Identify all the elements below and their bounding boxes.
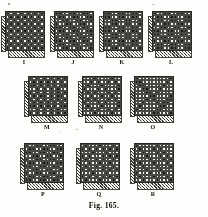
- draft-diagram-j: [54, 11, 99, 59]
- scan-speck: [60, 132, 61, 133]
- treadling-strip: [8, 50, 45, 58]
- diagram-label-p: P: [35, 191, 51, 197]
- scan-speck: [76, 129, 78, 130]
- treadling-strip: [137, 115, 174, 123]
- diagram-label-o: O: [145, 124, 161, 130]
- draft-diagram-o: [134, 76, 179, 124]
- draft-diagram-l: [152, 11, 197, 59]
- draft-diagram-i: [5, 11, 50, 59]
- diagram-label-l: L: [163, 59, 179, 65]
- treadling-strip: [31, 115, 68, 123]
- pattern-cell: [115, 178, 118, 181]
- treadling-strip: [57, 50, 94, 58]
- draft-diagram-n: [82, 76, 127, 124]
- pattern-cell: [138, 46, 141, 49]
- pattern-cell: [169, 111, 172, 114]
- treadling-strip-rule: [28, 183, 63, 189]
- pattern-cell: [59, 178, 62, 181]
- diagram-label-q: Q: [91, 191, 107, 197]
- treadling-strip: [85, 115, 122, 123]
- diagram-label-m: M: [39, 124, 55, 130]
- pattern-grid: [103, 11, 143, 51]
- treadling-strip: [83, 182, 120, 190]
- treadling-strip: [137, 182, 174, 190]
- figure-page: IJKLMNOPQR Fig. 165.: [0, 0, 208, 217]
- treadling-strip-rule: [9, 51, 44, 57]
- treadling-strip-rule: [156, 51, 191, 57]
- pattern-cell: [117, 111, 120, 114]
- treadling-strip-rule: [107, 51, 142, 57]
- treadling-strip: [106, 50, 143, 58]
- diagram-label-n: N: [93, 124, 109, 130]
- pattern-grid: [54, 11, 94, 51]
- pattern-grid: [134, 76, 174, 116]
- pattern-grid: [82, 76, 122, 116]
- pattern-cell: [187, 46, 190, 49]
- treadling-strip: [155, 50, 192, 58]
- pattern-grid: [24, 143, 64, 183]
- pattern-cell: [89, 46, 92, 49]
- pattern-grid: [5, 11, 45, 51]
- scan-speck: [152, 4, 155, 5]
- treadling-strip: [27, 182, 64, 190]
- pattern-cell: [169, 178, 172, 181]
- draft-diagram-m: [28, 76, 73, 124]
- diagram-label-j: J: [65, 59, 81, 65]
- treadling-strip-rule: [58, 51, 93, 57]
- draft-diagram-q: [80, 143, 125, 191]
- pattern-grid: [28, 76, 68, 116]
- draft-diagram-r: [134, 143, 179, 191]
- draft-diagram-k: [103, 11, 148, 59]
- scan-speck: [8, 3, 10, 5]
- pattern-cell: [40, 46, 43, 49]
- diagram-label-i: I: [16, 59, 32, 65]
- figure-caption: Fig. 165.: [0, 201, 208, 210]
- treadling-strip-rule: [138, 183, 173, 189]
- treadling-strip-rule: [32, 116, 67, 122]
- treadling-strip-rule: [84, 183, 119, 189]
- diagram-label-k: K: [114, 59, 130, 65]
- treadling-strip-rule: [138, 116, 173, 122]
- draft-diagram-p: [24, 143, 69, 191]
- pattern-cell: [63, 111, 66, 114]
- diagram-label-r: R: [145, 191, 161, 197]
- treadling-strip-rule: [86, 116, 121, 122]
- pattern-grid: [152, 11, 192, 51]
- pattern-grid: [80, 143, 120, 183]
- pattern-grid: [134, 143, 174, 183]
